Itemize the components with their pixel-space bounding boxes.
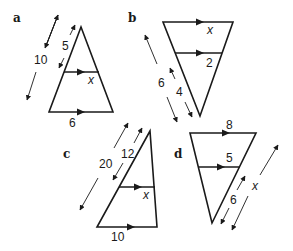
dimension-arrow-up [70,25,75,35]
panel-c: c 20 12 x 10 [63,123,157,244]
parallel-arrow-icon [77,69,85,76]
dim-label-12: 12 [121,147,135,161]
triangle-b [163,19,233,117]
dimension-arrow-up [46,15,58,46]
dimension-arrow-down [80,178,98,210]
dim-label-20: 20 [99,157,113,171]
parallel-arrow-icon [134,184,142,191]
panel-label-d: d [174,147,183,161]
dimension-arrow-up [237,176,245,190]
dim-label-6: 6 [158,76,165,90]
panel-label-b: b [128,11,136,25]
panel-a: a 10 5 x 6 [13,11,113,130]
dim-label-4: 4 [176,85,183,99]
parallel-arrow-icon [127,224,135,231]
dimension-arrow-up [145,35,157,64]
unknown-x-d: x [251,179,259,193]
dim-label-6-d: 6 [230,193,237,207]
parallel-arrow-icon [77,109,85,116]
dimension-arrow-up [114,123,128,148]
parallel-label-5: 5 [226,151,233,165]
dim-label-5: 5 [62,39,69,53]
dimension-arrow-up [260,145,278,175]
panel-label-c: c [63,147,70,161]
panel-label-a: a [13,11,21,25]
parallel-arrow-icon [196,50,204,57]
parallel-label-2: 2 [206,56,213,70]
dimension-arrow-down [113,163,123,180]
dimension-arrow-down [27,72,36,100]
dimension-arrow-down [59,58,64,68]
base-label-6: 6 [69,116,76,130]
dimension-arrow-down [221,208,229,224]
panel-b: b x 2 6 4 [128,11,233,122]
triangle-a [49,27,113,116]
dimension-arrow-up [134,128,142,143]
unknown-x-a: x [87,73,95,87]
dim-label-10: 10 [34,53,48,67]
triangle-c [97,131,157,231]
dimension-arrow-down [167,97,177,122]
triangle-d [190,130,256,224]
similar-triangles-figure: a 10 5 x 6 b x 2 6 [0,0,293,251]
panel-d: d 8 5 6 x [174,118,278,230]
parallel-arrow-icon [196,19,204,26]
parallel-arrow-icon [217,164,225,171]
unknown-x-b: x [206,23,214,37]
dimension-arrow-down [185,102,192,117]
dimension-arrow-up [170,68,175,79]
unknown-x-c: x [142,188,150,202]
base-label-10: 10 [111,230,125,244]
top-label-8: 8 [226,118,233,132]
